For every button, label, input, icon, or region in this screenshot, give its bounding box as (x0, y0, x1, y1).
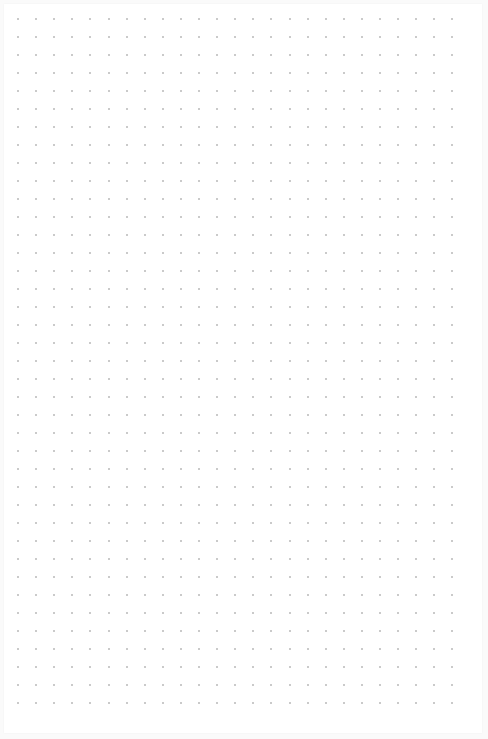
grid-dot (17, 270, 19, 272)
grid-dot (397, 468, 399, 470)
grid-dot (35, 90, 37, 92)
grid-dot (234, 180, 236, 182)
grid-dot (433, 630, 435, 632)
grid-dot (415, 486, 417, 488)
grid-dot (216, 486, 218, 488)
grid-dot (17, 576, 19, 578)
grid-dot (17, 252, 19, 254)
grid-dot (89, 162, 91, 164)
grid-dot (71, 90, 73, 92)
grid-dot (252, 342, 254, 344)
grid-dot (307, 522, 309, 524)
grid-dot (343, 234, 345, 236)
grid-dot (289, 648, 291, 650)
grid-dot (126, 144, 128, 146)
grid-dot (307, 450, 309, 452)
grid-dot (234, 450, 236, 452)
grid-dot (252, 306, 254, 308)
grid-dot (71, 450, 73, 452)
grid-dot (89, 666, 91, 668)
grid-dot (35, 288, 37, 290)
grid-dot (108, 684, 110, 686)
grid-dot (216, 684, 218, 686)
grid-dot (451, 504, 453, 506)
grid-dot (144, 414, 146, 416)
grid-dot (234, 54, 236, 56)
grid-dot (415, 180, 417, 182)
grid-dot (162, 558, 164, 560)
grid-dot (307, 108, 309, 110)
grid-dot (216, 558, 218, 560)
grid-dot (270, 288, 272, 290)
grid-dot (198, 414, 200, 416)
grid-dot (180, 54, 182, 56)
grid-dot (415, 306, 417, 308)
grid-dot (144, 198, 146, 200)
grid-dot (307, 504, 309, 506)
grid-dot (126, 432, 128, 434)
grid-dot (415, 594, 417, 596)
grid-dot (71, 648, 73, 650)
grid-dot (379, 252, 381, 254)
grid-dot (162, 288, 164, 290)
grid-dot (108, 234, 110, 236)
grid-dot (108, 648, 110, 650)
grid-dot (89, 108, 91, 110)
grid-dot (361, 450, 363, 452)
grid-dot (289, 576, 291, 578)
grid-dot (144, 594, 146, 596)
grid-dot (397, 306, 399, 308)
grid-dot (252, 396, 254, 398)
grid-dot (307, 144, 309, 146)
grid-dot (307, 234, 309, 236)
grid-dot (343, 324, 345, 326)
grid-dot (89, 684, 91, 686)
grid-dot (289, 18, 291, 20)
grid-dot (89, 36, 91, 38)
grid-dot (17, 630, 19, 632)
grid-dot (451, 360, 453, 362)
grid-dot (162, 162, 164, 164)
grid-dot (289, 342, 291, 344)
grid-dot (379, 378, 381, 380)
grid-dot (343, 180, 345, 182)
grid-dot (343, 612, 345, 614)
grid-dot (307, 432, 309, 434)
grid-dot (89, 216, 91, 218)
grid-dot (307, 558, 309, 560)
grid-dot (162, 648, 164, 650)
grid-dot (397, 324, 399, 326)
grid-dot (343, 702, 345, 704)
grid-dot (270, 522, 272, 524)
grid-dot (216, 126, 218, 128)
grid-dot (108, 594, 110, 596)
grid-dot (270, 54, 272, 56)
grid-dot (325, 594, 327, 596)
grid-dot (162, 342, 164, 344)
grid-dot (108, 522, 110, 524)
grid-dot (17, 90, 19, 92)
grid-dot (252, 432, 254, 434)
grid-dot (361, 288, 363, 290)
grid-dot (234, 558, 236, 560)
grid-dot (17, 432, 19, 434)
grid-dot (162, 522, 164, 524)
grid-dot (71, 576, 73, 578)
grid-dot (71, 270, 73, 272)
grid-dot (198, 162, 200, 164)
grid-dot (451, 378, 453, 380)
grid-dot (451, 270, 453, 272)
grid-dot (379, 126, 381, 128)
grid-dot (89, 576, 91, 578)
grid-dot (252, 378, 254, 380)
grid-dot (35, 198, 37, 200)
grid-dot (234, 288, 236, 290)
grid-dot (451, 342, 453, 344)
grid-dot (216, 288, 218, 290)
grid-dot (198, 486, 200, 488)
grid-dot (415, 126, 417, 128)
grid-dot (71, 414, 73, 416)
grid-dot (198, 702, 200, 704)
grid-dot (270, 414, 272, 416)
grid-dot (53, 378, 55, 380)
